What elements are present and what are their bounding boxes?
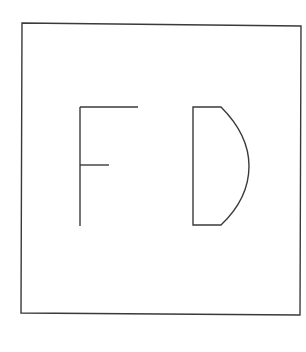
frame-border: [21, 23, 301, 315]
letter-d-outline: [193, 107, 249, 225]
drawing-canvas: [0, 0, 306, 352]
letter-d: [193, 107, 249, 225]
letter-f: [80, 107, 138, 226]
